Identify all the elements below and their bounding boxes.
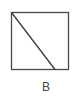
figure-label: B bbox=[36, 80, 56, 94]
diagonal-line bbox=[12, 13, 56, 70]
square-outline bbox=[12, 13, 69, 70]
